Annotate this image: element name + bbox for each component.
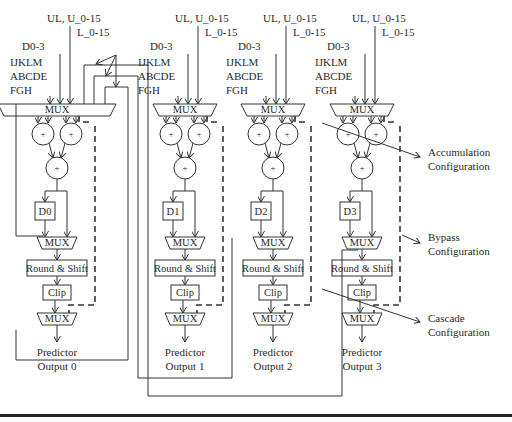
- bypass-dashed-path-1: [197, 126, 223, 313]
- sum-wire-r: [366, 143, 370, 158]
- top-mux-2-label: MUX: [261, 104, 286, 115]
- to-delay-wire: [173, 179, 185, 202]
- dashed-stub: [207, 116, 219, 122]
- adder-left-1-sign: +: [168, 129, 173, 139]
- input-label-d-1: D0-3: [150, 40, 173, 52]
- adder-left-3-sign: +: [345, 129, 350, 139]
- output-label-line2-1: Output 1: [166, 360, 205, 372]
- adder-final-sign-3: +: [359, 163, 364, 173]
- output-label-line1-0: Predictor: [37, 346, 78, 358]
- sum-wire-l: [265, 143, 269, 158]
- out-mux-3-label: MUX: [350, 313, 375, 324]
- output-label-line1-2: Predictor: [253, 346, 294, 358]
- bypass-dashed-path-2: [285, 126, 311, 313]
- round-shift-label-1: Round & Shift: [154, 263, 216, 274]
- input-label-d-0: D0-3: [22, 40, 45, 52]
- feedback-wire-3: [105, 87, 128, 360]
- cascade-label-2: Configuration: [428, 326, 490, 338]
- input-label-l-3: L_0-15: [382, 26, 415, 38]
- bypass-label-2: Configuration: [428, 245, 490, 257]
- input-label-fgh-1: FGH: [138, 84, 160, 96]
- bypass-wire: [185, 191, 195, 237]
- bypass-wire: [57, 191, 67, 237]
- sum-wire-r: [61, 143, 65, 158]
- input-label-d-3: D0-3: [327, 40, 350, 52]
- input-label-ul-u-1: UL, U_0-15: [175, 12, 229, 24]
- adder-final-sign-1: +: [182, 163, 187, 173]
- input-label-d-2: D0-3: [238, 40, 261, 52]
- input-label-fgh-2: FGH: [226, 84, 248, 96]
- dashed-stub: [295, 116, 307, 122]
- bypass-dashed-path-0: [69, 126, 95, 313]
- round-shift-label-3: Round & Shift: [331, 263, 393, 274]
- clip-label-3: Clip: [353, 287, 371, 298]
- output-label-line2-0: Output 0: [38, 360, 77, 372]
- adder-final-sign-0: +: [54, 163, 59, 173]
- delay-label-2: D2: [255, 206, 268, 217]
- input-label-abcde-2: ABCDE: [226, 70, 264, 82]
- dashed-stub: [79, 116, 91, 122]
- input-label-fgh-3: FGH: [315, 84, 337, 96]
- out-mux-2-label: MUX: [261, 313, 286, 324]
- output-label-line2-3: Output 3: [343, 360, 382, 372]
- input-label-abcde-0: ABCDE: [10, 70, 48, 82]
- clip-label-1: Clip: [176, 287, 194, 298]
- dashed-stub: [384, 116, 396, 122]
- config-arrow-1: [96, 55, 116, 64]
- out-mux-1-label: MUX: [173, 313, 198, 324]
- input-label-ul-u-0: UL, U_0-15: [47, 12, 101, 24]
- mid-mux-0-label: MUX: [45, 237, 70, 248]
- bypass-dashed-path-3: [374, 126, 400, 313]
- mid-mux-3-label: MUX: [350, 237, 375, 248]
- input-label-abcde-1: ABCDE: [138, 70, 176, 82]
- delay-label-0: D0: [39, 206, 52, 217]
- bypass-pointer: [402, 235, 420, 243]
- sum-wire-l: [49, 143, 53, 158]
- out-mux-0-label: MUX: [45, 313, 70, 324]
- input-label-l-1: L_0-15: [205, 26, 238, 38]
- round-shift-label-0: Round & Shift: [26, 263, 88, 274]
- bypass-wire: [362, 191, 372, 237]
- adder-right-1-sign: +: [196, 129, 201, 139]
- sum-wire-r: [277, 143, 281, 158]
- adder-right-2-sign: +: [284, 129, 289, 139]
- output-label-line2-2: Output 2: [254, 360, 293, 372]
- sum-wire-r: [189, 143, 193, 158]
- adder-right-3-sign: +: [373, 129, 378, 139]
- round-shift-label-2: Round & Shift: [242, 263, 304, 274]
- output-label-line1-1: Predictor: [165, 346, 206, 358]
- cascade-label-1: Cascade: [428, 312, 465, 324]
- accumulation-label-2: Configuration: [428, 160, 490, 172]
- mid-mux-2-label: MUX: [261, 237, 286, 248]
- input-label-ijklm-2: IJKLM: [226, 56, 259, 68]
- to-delay-wire: [45, 179, 57, 202]
- adder-final-sign-2: +: [270, 163, 275, 173]
- input-label-ijklm-3: IJKLM: [315, 56, 348, 68]
- input-label-abcde-3: ABCDE: [315, 70, 353, 82]
- input-label-l-0: L_0-15: [77, 26, 110, 38]
- clip-label-0: Clip: [48, 287, 66, 298]
- top-mux-0-label: MUX: [45, 104, 70, 115]
- predictor-architecture-diagram: UL, U_0-15L_0-15D0-3IJKLMABCDEFGHMUX+++D…: [0, 0, 512, 422]
- bottom-rule: [0, 414, 512, 417]
- mid-mux-1-label: MUX: [173, 237, 198, 248]
- bypass-label-1: Bypass: [428, 231, 460, 243]
- feedback-wire-1: [84, 65, 342, 396]
- delay-label-3: D3: [344, 206, 357, 217]
- sum-wire-l: [354, 143, 358, 158]
- to-delay-wire: [261, 179, 273, 202]
- input-label-ul-u-2: UL, U_0-15: [263, 12, 317, 24]
- adder-left-2-sign: +: [256, 129, 261, 139]
- to-delay-wire: [350, 179, 362, 202]
- top-mux-3-label: MUX: [350, 104, 375, 115]
- bypass-wire: [273, 191, 283, 237]
- top-mux-1-label: MUX: [173, 104, 198, 115]
- delay-label-1: D1: [167, 206, 180, 217]
- accumulation-label-1: Accumulation: [428, 146, 491, 158]
- adder-right-0-sign: +: [68, 129, 73, 139]
- adder-left-0-sign: +: [40, 129, 45, 139]
- sum-wire-l: [177, 143, 181, 158]
- input-label-ul-u-3: UL, U_0-15: [352, 12, 406, 24]
- output-label-line1-3: Predictor: [342, 346, 383, 358]
- input-label-ijklm-0: IJKLM: [10, 56, 43, 68]
